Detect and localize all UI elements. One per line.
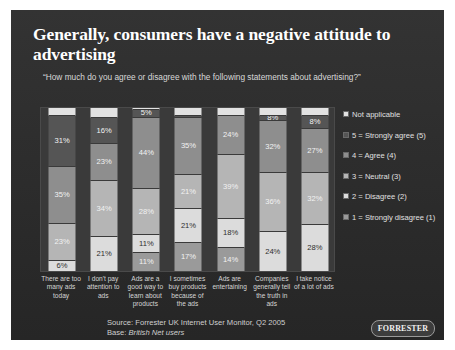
chart-segment-label: 34% [97, 205, 112, 213]
chart-segment-label: 21% [181, 188, 196, 196]
chart-category-label: I don't pay attention to ads [82, 275, 124, 300]
chart-category-label: Ads are a good way to learn about produc… [124, 275, 166, 309]
base-note: Base: British Net users [107, 328, 184, 338]
chart-bar-segment: 31% [49, 116, 76, 167]
chart-bar-segment: 6% [49, 261, 76, 271]
legend-item[interactable]: 3 = Neutral (3) [343, 172, 441, 182]
legend-label: 3 = Neutral (3) [352, 172, 401, 182]
chart-bar-segment: 5% [133, 110, 160, 118]
chart-category-label: Companies generally tell the truth in ad… [251, 275, 293, 309]
chart-bar-segment: 14% [217, 248, 244, 271]
forrester-logo: FORRESTER [371, 320, 435, 337]
legend-swatch-icon [343, 214, 349, 220]
chart-bar-segment: 35% [175, 118, 202, 175]
forrester-logo-text: FORRESTER [378, 324, 429, 333]
chart-category-label: There are too many ads today [40, 275, 82, 300]
chart-bar-segment [301, 108, 328, 116]
chart-bar[interactable]: 31%35%23%6% [49, 108, 76, 271]
source-note: Source: Forrester UK Internet User Monit… [107, 318, 285, 328]
chart-bar-segment: 34% [91, 181, 118, 236]
chart-bar-segment: 21% [175, 175, 202, 209]
chart-segment-label: 27% [307, 147, 322, 155]
chart-bar-segment: 28% [301, 225, 328, 271]
chart-category-label: I sometimes buy products because of the … [166, 275, 208, 309]
legend-item[interactable]: 4 = Agree (4) [343, 151, 441, 161]
chart-bar[interactable]: 5%44%28%11%11% [133, 108, 160, 271]
chart-segment-label: 21% [97, 250, 112, 258]
legend-swatch-icon [343, 173, 349, 179]
chart-bar[interactable]: 35%21%21%17% [175, 108, 202, 271]
chart-segment-label: 35% [54, 191, 69, 199]
chart-bar-segment: 28% [133, 189, 160, 235]
legend-swatch-icon [343, 152, 349, 158]
legend-label: 5 = Strongly agree (5) [352, 131, 426, 141]
chart-bar-segment: 44% [133, 118, 160, 190]
chart-bar-segment: 32% [301, 173, 328, 225]
chart-category-label: I take notice of a lot of ads [293, 275, 335, 292]
chart-segment-label: 18% [223, 229, 238, 237]
chart-segment-label: 5% [141, 110, 152, 117]
legend-label: 2 = Disagree (2) [352, 192, 407, 202]
chart-segment-label: 39% [223, 183, 238, 191]
legend-item[interactable]: 2 = Disagree (2) [343, 192, 441, 202]
chart-bar-segment [175, 108, 202, 116]
chart-bar-segment: 21% [175, 209, 202, 243]
chart-segment-label: 11% [139, 240, 154, 248]
chart-segment-label: 21% [181, 222, 196, 230]
chart-bar-group: 8%27%32%28% [294, 108, 336, 271]
slide-background: Generally, consumers have a negative att… [11, 10, 444, 340]
legend-label: 1 = Strongly disagree (1) [352, 213, 435, 223]
chart-category-axis: There are too many ads todayI don't pay … [40, 275, 335, 317]
chart-bar-group: 31%35%23%6% [41, 108, 83, 271]
legend-item[interactable]: Not applicable [343, 110, 441, 120]
chart-bar-segment [217, 108, 244, 116]
chart-bar[interactable]: 16%23%34%21% [91, 108, 118, 271]
chart-bar-segment: 36% [259, 173, 286, 232]
chart-segment-label: 44% [139, 149, 154, 157]
legend-swatch-icon [343, 132, 349, 138]
chart-bar-group: 24%39%18%14% [210, 108, 252, 271]
chart-segment-label: 11% [139, 258, 154, 266]
chart-segment-label: 32% [307, 195, 322, 203]
chart-bar-group: 35%21%21%17% [167, 108, 209, 271]
chart-bar-segment [259, 108, 286, 116]
page-title: Generally, consumers have a negative att… [33, 24, 393, 64]
legend-swatch-icon [343, 193, 349, 199]
chart-bar-segment: 16% [91, 118, 118, 144]
chart-bar-segment: 18% [217, 219, 244, 248]
chart-bar[interactable]: 24%39%18%14% [217, 108, 244, 271]
chart-segment-label: 31% [54, 137, 69, 145]
chart-bar[interactable]: 8%27%32%28% [301, 108, 328, 271]
chart-bar-segment: 24% [259, 232, 286, 271]
slide: Generally, consumers have a negative att… [11, 10, 444, 340]
chart-bar-group: 5%44%28%11%11% [125, 108, 167, 271]
chart-bar-group: 16%23%34%21% [83, 108, 125, 271]
chart-bar[interactable]: 8%32%36%24% [259, 108, 286, 271]
chart-bar-segment: 11% [133, 235, 160, 253]
chart-bar-group: 8%32%36%24% [252, 108, 294, 271]
base-prefix: Base: [107, 328, 129, 337]
chart-bar-segment: 39% [217, 155, 244, 219]
chart-bar-segment [49, 108, 76, 116]
chart-segment-label: 36% [265, 198, 280, 206]
chart-bar-segment: 8% [301, 116, 328, 129]
chart-bar-segment: 32% [259, 121, 286, 173]
chart-segment-label: 23% [97, 158, 112, 166]
chart-segment-label: 16% [97, 127, 112, 135]
chart-segment-label: 35% [181, 142, 196, 150]
chart-bar-segment: 17% [175, 243, 202, 271]
chart-segment-label: 28% [139, 208, 154, 216]
chart-segment-label: 8% [309, 118, 320, 126]
chart-subtitle: “How much do you agree or disagree with … [43, 72, 373, 84]
chart-segment-label: 24% [223, 131, 238, 139]
chart-bar-segment: 23% [91, 144, 118, 181]
chart-segment-label: 14% [223, 256, 238, 264]
chart-segment-label: 28% [307, 244, 322, 252]
legend-item[interactable]: 1 = Strongly disagree (1) [343, 213, 441, 223]
chart-bar-segment: 24% [217, 116, 244, 155]
chart-segment-label: 17% [181, 253, 196, 261]
legend-item[interactable]: 5 = Strongly agree (5) [343, 131, 441, 141]
chart-bar-segment: 35% [49, 167, 76, 224]
chart-bar-segment: 23% [49, 224, 76, 261]
chart-plot-area: 31%35%23%6%16%23%34%21%5%44%28%11%11%35%… [40, 107, 335, 272]
